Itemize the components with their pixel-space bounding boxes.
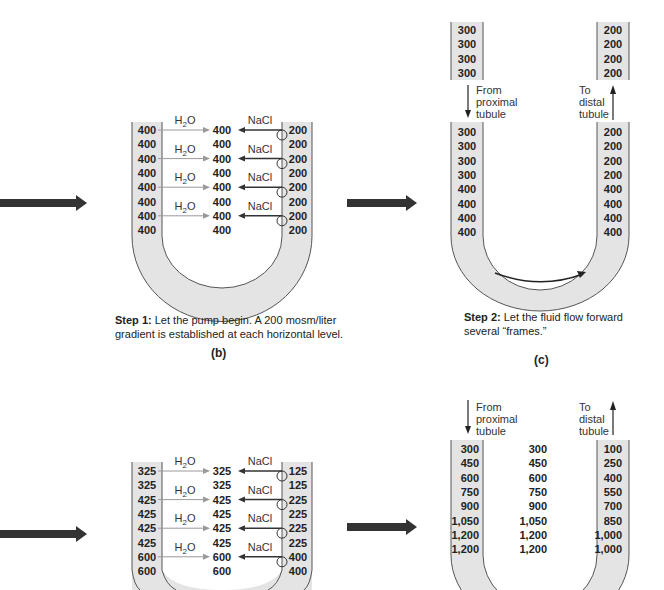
- osmolarity-value: 750: [529, 486, 547, 498]
- panel-b-letter: (b): [211, 346, 226, 360]
- panel-c-caption: Step 2: Let the fluid flow forward sever…: [464, 310, 664, 338]
- osmolarity-value: 300: [461, 443, 479, 455]
- osmolarity-value: 100: [604, 443, 622, 455]
- osmolarity-value: 600: [461, 472, 479, 484]
- osmolarity-value: 250: [604, 457, 622, 469]
- panel-c-letter: (c): [534, 353, 549, 367]
- osmolarity-value: 900: [461, 500, 479, 512]
- osmolarity-value: 1,050: [451, 515, 479, 527]
- from-proximal-arrow-icon: [465, 400, 471, 434]
- caption-line-2: several “frames.”: [464, 325, 547, 337]
- osmolarity-value: 700: [604, 500, 622, 512]
- step-1-label: Step 1:: [115, 314, 152, 326]
- osmolarity-value: 1,000: [594, 543, 622, 555]
- osmolarity-value: 1,200: [519, 543, 547, 555]
- osmolarity-value: 1,000: [594, 529, 622, 541]
- osmolarity-value: 600: [529, 472, 547, 484]
- to-distal-arrow-icon: [610, 401, 616, 435]
- osmolarity-value: 1,050: [519, 515, 547, 527]
- caption-line-1: Let the fluid flow forward: [504, 311, 623, 323]
- to-distal-label: distal: [579, 413, 605, 425]
- to-distal-label: To: [579, 401, 591, 413]
- osmolarity-value: 1,200: [451, 543, 479, 555]
- osmolarity-value: 550: [604, 486, 622, 498]
- osmolarity-value: 1,200: [451, 529, 479, 541]
- panel-b-caption: Step 1: Let the pump begin. A 200 mosm/l…: [115, 313, 355, 341]
- from-proximal-label: proximal: [476, 413, 518, 425]
- osmolarity-value: 450: [529, 457, 547, 469]
- osmolarity-value: 400: [604, 472, 622, 484]
- from-proximal-label: tubule: [476, 425, 506, 437]
- caption-line-1: Let the pump begin. A 200 mosm/liter: [155, 314, 337, 326]
- caption-line-2: gradient is established at each horizont…: [115, 328, 343, 340]
- osmolarity-value: 750: [461, 486, 479, 498]
- osmolarity-value: 1,200: [519, 529, 547, 541]
- panel-e-loop: 3004506007509001,0501,2001,2003004506007…: [0, 0, 664, 590]
- osmolarity-value: 850: [604, 515, 622, 527]
- to-distal-label: tubule: [579, 425, 609, 437]
- osmolarity-value: 300: [529, 443, 547, 455]
- osmolarity-value: 900: [529, 500, 547, 512]
- osmolarity-value: 450: [461, 457, 479, 469]
- step-2-label: Step 2:: [464, 311, 501, 323]
- from-proximal-label: From: [476, 401, 502, 413]
